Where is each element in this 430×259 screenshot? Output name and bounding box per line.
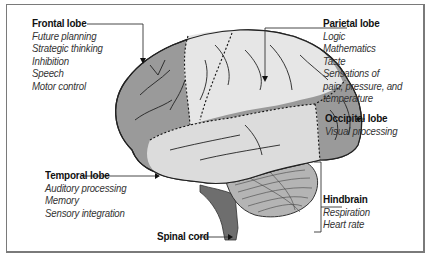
spinal-cord-label: Spinal cord: [157, 230, 215, 243]
frontal-function: Motor control: [32, 80, 103, 93]
parietal-function: Taste: [323, 55, 402, 68]
frontal-lobe-label: Frontal lobe Future planning Strategic t…: [32, 17, 109, 92]
parietal-function: pain, pressure, and: [323, 80, 402, 93]
hindbrain-label: Hindbrain Respiration Heart rate: [323, 193, 374, 231]
occipital-function: Visual processing: [325, 125, 397, 138]
parietal-function: Mathematics: [323, 42, 402, 55]
parietal-lobe-title: Parietal lobe: [323, 17, 380, 30]
parietal-function: Logic: [323, 30, 402, 43]
temporal-function: Auditory processing: [45, 182, 126, 195]
temporal-lobe-label: Temporal lobe Auditory processing Memory…: [45, 169, 133, 219]
parietal-lobe-label: Parietal lobe Logic Mathematics Taste Se…: [323, 17, 409, 105]
temporal-function: Memory: [45, 194, 126, 207]
temporal-lobe-title: Temporal lobe: [45, 169, 110, 182]
temporal-function: Sensory integration: [45, 207, 126, 220]
frontal-lobe-title: Frontal lobe: [32, 17, 86, 30]
frontal-function: Inhibition: [32, 55, 103, 68]
spinal-cord-title: Spinal cord: [157, 230, 209, 243]
occipital-lobe-title: Occipital lobe: [325, 112, 387, 125]
frontal-function: Strategic thinking: [32, 42, 103, 55]
frontal-function: Speech: [32, 67, 103, 80]
parietal-function: temperature: [323, 92, 402, 105]
occipital-lobe-label: Occipital lobe Visual processing: [325, 112, 404, 137]
hindbrain-title: Hindbrain: [323, 193, 368, 206]
hindbrain-function: Respiration: [323, 206, 370, 219]
hindbrain-function: Heart rate: [323, 218, 370, 231]
frontal-function: Future planning: [32, 30, 103, 43]
parietal-function: Sensations of: [323, 67, 402, 80]
